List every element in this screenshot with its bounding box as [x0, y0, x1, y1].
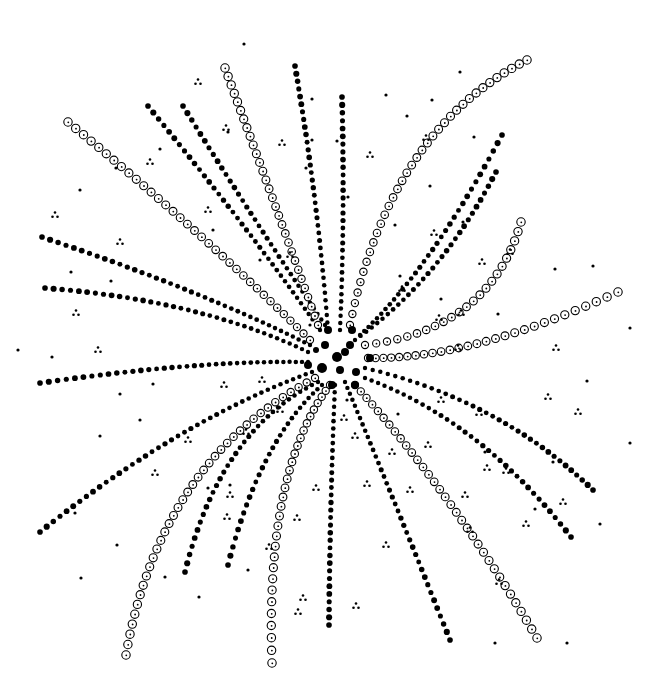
ring-center-dot	[273, 567, 275, 569]
ring-center-dot	[325, 390, 327, 392]
cluster-dot	[544, 398, 547, 401]
solid-dot	[275, 336, 280, 341]
solid-dot	[104, 480, 109, 485]
ring-center-dot	[450, 504, 452, 506]
ring-center-dot	[321, 396, 323, 398]
cluster-dot	[298, 519, 301, 522]
solid-dot	[339, 306, 343, 310]
ring-center-dot	[310, 416, 312, 418]
ring-center-dot	[91, 141, 93, 143]
cluster-dot	[433, 229, 436, 232]
cluster-dot	[340, 419, 343, 422]
solid-dot	[331, 419, 336, 424]
solid-dot	[328, 538, 333, 543]
ring-center-dot	[291, 461, 293, 463]
ring-center-dot	[274, 556, 276, 558]
solid-dot	[202, 173, 207, 178]
scatter-dot	[398, 274, 401, 277]
starburst-canvas	[0, 0, 649, 694]
cluster-dot	[354, 432, 357, 435]
solid-dot	[276, 254, 281, 259]
solid-dot	[215, 158, 221, 164]
solid-dot	[55, 240, 60, 245]
cluster-dot	[430, 234, 433, 237]
solid-dot	[98, 372, 103, 377]
ring-center-dot	[182, 499, 184, 501]
ring-center-dot	[233, 436, 235, 438]
scatter-dot	[163, 575, 166, 578]
solid-dot	[154, 366, 159, 371]
solid-dot	[391, 307, 396, 312]
solid-dot	[340, 110, 345, 115]
solid-dot	[435, 260, 440, 265]
ring-center-dot	[417, 459, 419, 461]
ring-center-dot	[376, 343, 378, 345]
solid-dot	[233, 451, 238, 456]
solid-dot	[395, 389, 400, 394]
ring-center-dot	[505, 585, 507, 587]
ring-center-dot	[479, 294, 481, 296]
center-dot	[341, 348, 349, 356]
solid-dot	[332, 390, 336, 394]
scatter-dot	[628, 441, 631, 444]
solid-dot	[425, 271, 430, 276]
cluster-dot	[223, 381, 226, 384]
solid-dot	[110, 475, 115, 480]
cluster-dot	[199, 83, 202, 86]
ring-center-dot	[187, 224, 189, 226]
ring-center-dot	[260, 413, 262, 415]
solid-dot	[225, 203, 230, 208]
solid-dot	[470, 211, 475, 216]
cluster-dot	[194, 83, 197, 86]
solid-dot	[268, 360, 273, 365]
solid-dot	[379, 467, 384, 472]
cluster-dot	[209, 211, 212, 214]
solid-dot	[552, 454, 557, 459]
ring-center-dot	[67, 121, 69, 123]
solid-dot	[493, 169, 499, 175]
solid-dot	[282, 427, 287, 432]
scatter-dot	[553, 267, 556, 270]
solid-dot	[37, 529, 43, 535]
solid-dot	[341, 203, 346, 208]
cluster-dot	[459, 349, 462, 352]
ring-center-dot	[383, 417, 385, 419]
solid-dot	[246, 396, 251, 401]
solid-dot	[312, 193, 317, 198]
ring-center-dot	[456, 110, 458, 112]
solid-dot	[328, 515, 333, 520]
ring-center-dot	[519, 64, 521, 66]
solid-dot	[68, 288, 73, 293]
solid-dot	[316, 380, 320, 384]
solid-dot	[540, 445, 545, 450]
ring-center-dot	[441, 351, 443, 353]
solid-dot	[267, 452, 272, 457]
solid-dot	[340, 270, 345, 275]
scatter-dot	[493, 641, 496, 644]
solid-dot	[227, 405, 232, 410]
ring-center-dot	[383, 357, 385, 359]
ring-center-dot	[290, 320, 292, 322]
center-dot	[324, 326, 332, 334]
solid-dot	[55, 378, 60, 383]
solid-dot	[410, 544, 416, 550]
ring-center-dot	[421, 150, 423, 152]
solid-dot	[285, 266, 290, 271]
ring-center-dot	[360, 391, 362, 393]
solid-dot	[79, 248, 85, 254]
cluster-dot	[352, 607, 355, 610]
solid-dot	[147, 273, 152, 278]
ring-center-dot	[263, 294, 265, 296]
ring-center-dot	[511, 68, 513, 70]
solid-dot	[340, 142, 345, 147]
cluster-dot	[486, 464, 489, 467]
solid-dot	[445, 417, 450, 422]
ring-center-dot	[472, 535, 474, 537]
ring-center-dot	[129, 634, 131, 636]
solid-dot	[340, 218, 345, 223]
cluster-dot	[574, 413, 577, 416]
solid-dot	[279, 329, 284, 334]
ring-center-dot	[524, 329, 526, 331]
solid-dot	[238, 445, 243, 450]
solid-dot	[287, 360, 291, 364]
